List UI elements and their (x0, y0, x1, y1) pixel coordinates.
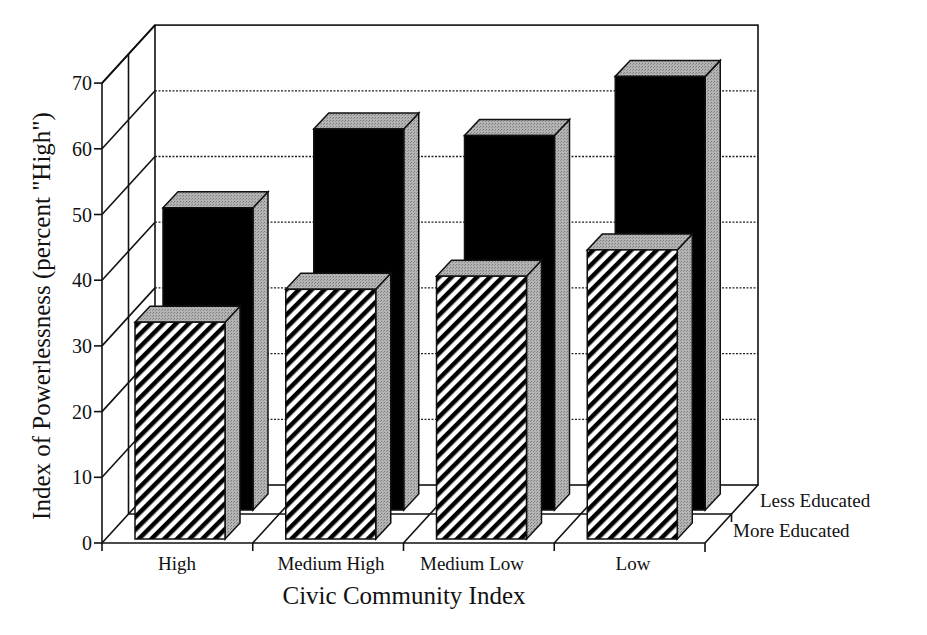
y-tick-label: 40 (72, 269, 92, 291)
y-tick-label: 60 (72, 138, 92, 160)
y-tick-label: 70 (72, 72, 92, 94)
y-tick-label: 20 (72, 401, 92, 423)
legend-less-educated: Less Educated (760, 490, 871, 511)
bar-more-educated-1 (286, 273, 391, 539)
bar-more-educated-2 (437, 260, 542, 539)
y-tick-label: 50 (72, 204, 92, 226)
bar-more-educated-0 (135, 306, 240, 539)
bar-more-educated-3 (587, 234, 692, 539)
x-tick-label: Low (616, 553, 651, 574)
y-axis: 010203040506070 (72, 72, 102, 554)
y-tick-label: 10 (72, 466, 92, 488)
x-tick-label: Medium High (277, 553, 385, 574)
bar-chart-3d: 010203040506070 HighMedium HighMedium Lo… (0, 0, 927, 635)
y-tick-label: 0 (82, 532, 92, 554)
legend-more-educated: More Educated (733, 520, 850, 541)
x-tick-label: Medium Low (420, 553, 524, 574)
x-axis-title: Civic Community Index (282, 582, 526, 609)
x-axis: HighMedium HighMedium LowLow (158, 553, 651, 574)
y-axis-title: Index of Powerlessness (percent "High") (28, 112, 56, 520)
x-tick-label: High (158, 553, 197, 574)
y-tick-label: 30 (72, 335, 92, 357)
